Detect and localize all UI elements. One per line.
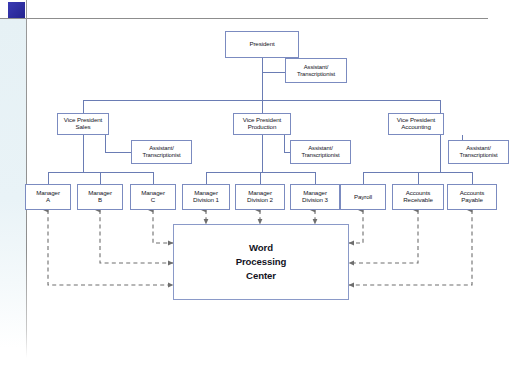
- node-vp-sales[interactable]: Vice President Sales: [57, 113, 109, 135]
- node-manager-division-1[interactable]: Manager Division 1: [182, 184, 230, 210]
- node-assistant-president[interactable]: Assistant/ Transcriptionist: [285, 58, 347, 83]
- node-president[interactable]: President: [225, 31, 299, 58]
- node-vp-production[interactable]: Vice President Production: [233, 113, 291, 135]
- node-manager-a[interactable]: Manager A: [25, 184, 71, 210]
- node-accounts-receivable[interactable]: Accounts Receivable: [392, 184, 444, 210]
- node-manager-b[interactable]: Manager B: [77, 184, 123, 210]
- node-accounts-payable[interactable]: Accounts Payable: [447, 184, 497, 210]
- node-manager-c[interactable]: Manager C: [130, 184, 176, 210]
- node-word-processing-center[interactable]: Word Processing Center: [173, 224, 349, 300]
- node-vp-accounting[interactable]: Vice President Accounting: [388, 113, 444, 135]
- node-assistant-accounting[interactable]: Assistant/ Transcriptionist: [448, 140, 509, 164]
- node-assistant-sales[interactable]: Assistant/ Transcriptionist: [131, 140, 192, 164]
- node-manager-division-2[interactable]: Manager Division 2: [235, 184, 285, 210]
- node-manager-division-3[interactable]: Manager Division 3: [290, 184, 340, 210]
- node-payroll[interactable]: Payroll: [340, 184, 386, 210]
- node-assistant-production[interactable]: Assistant/ Transcriptionist: [290, 140, 351, 164]
